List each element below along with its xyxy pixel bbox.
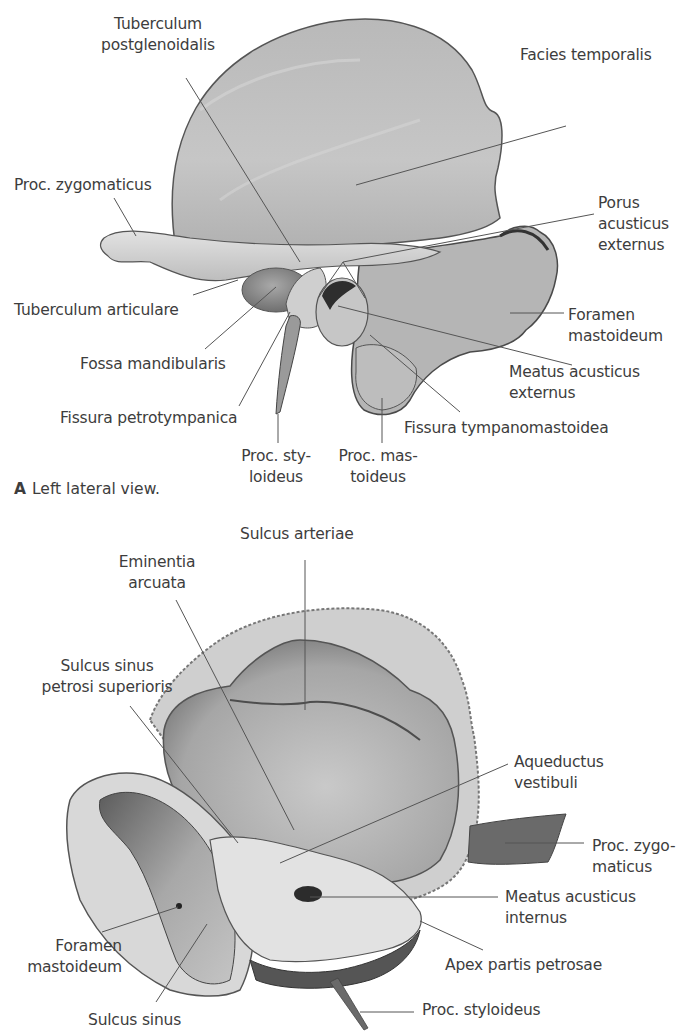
label-proc-styloideus-b: Proc. styloideus (422, 1000, 582, 1021)
label-sulcus-sinus-petrosi-superioris: Sulcus sinus petrosi superioris (22, 656, 192, 698)
label-proc-mastoideus: Proc. mas- toideus (336, 446, 420, 488)
meatus-acusticus-internus-shape (294, 886, 322, 902)
label-fossa-mandibularis: Fossa mandibularis (80, 354, 250, 375)
leader-fossa-mandibularis (205, 287, 276, 349)
label-proc-zygomaticus-b: Proc. zygo- maticus (592, 836, 684, 878)
label-proc-styloideus-a: Proc. sty- loideus (236, 446, 316, 488)
label-fissura-tympanomastoidea: Fissura tympanomastoidea (404, 418, 644, 439)
label-tuberculum-articulare: Tuberculum articulare (14, 300, 214, 321)
leader-apex-partis-petrosae (420, 921, 483, 950)
label-proc-zygomaticus: Proc. zygomaticus (14, 175, 174, 196)
leader-tuberculum-articulare (193, 280, 238, 295)
label-fissura-petrotympanica: Fissura petrotympanica (60, 408, 260, 429)
label-foramen-mastoideum-a: Foramen mastoideum (568, 305, 678, 347)
bone-illustration (0, 0, 684, 1032)
label-foramen-mastoideum-b: Foramen mastoideum (10, 936, 122, 978)
leader-proc-zygomaticus (114, 198, 136, 236)
label-tuberculum-postglenoidalis: Tuberculum postglenoidalis (88, 14, 228, 56)
label-porus-acusticus-externus: Porus acusticus externus (598, 193, 682, 256)
label-facies-temporalis: Facies temporalis (520, 45, 680, 66)
label-sulcus-sinus: Sulcus sinus (88, 1010, 208, 1031)
temporal-bone-figure: Tuberculum postglenoidalisFacies tempora… (0, 0, 684, 1032)
processus-zygomaticus-b (468, 814, 566, 864)
processus-styloideus-b-shape (330, 978, 368, 1030)
label-aqueductus-vestibuli: Aqueductus vestibuli (514, 752, 634, 794)
label-sulcus-arteriae: Sulcus arteriae (240, 524, 390, 545)
label-meatus-acusticus-externus: Meatus acusticus externus (509, 362, 669, 404)
label-meatus-acusticus-internus: Meatus acusticus internus (505, 887, 675, 929)
foramen-mastoideum-dot (176, 903, 182, 909)
caption-text: Left lateral view. (32, 480, 160, 498)
label-apex-partis-petrosae: Apex partis petrosae (445, 955, 635, 976)
panel-a-caption: ALeft lateral view. (14, 480, 160, 498)
caption-letter: A (14, 480, 26, 498)
label-eminentia-arcuata: Eminentia arcuata (102, 552, 212, 594)
